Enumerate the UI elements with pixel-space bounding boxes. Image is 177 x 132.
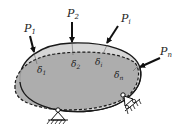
load-arrow-p1 [30,36,34,52]
load-label-pi: Pi [120,12,131,26]
load-arrow-pn [140,58,160,67]
load-label-p1: P1 [23,22,36,36]
elastic-body-diagram: P1 P2 Pi Pn δ1 δ2 δi δn [0,0,177,132]
load-arrow-pi [107,26,118,43]
load-label-pn: Pn [159,45,172,59]
load-label-p2: P2 [66,7,79,21]
roller-support [121,93,141,114]
